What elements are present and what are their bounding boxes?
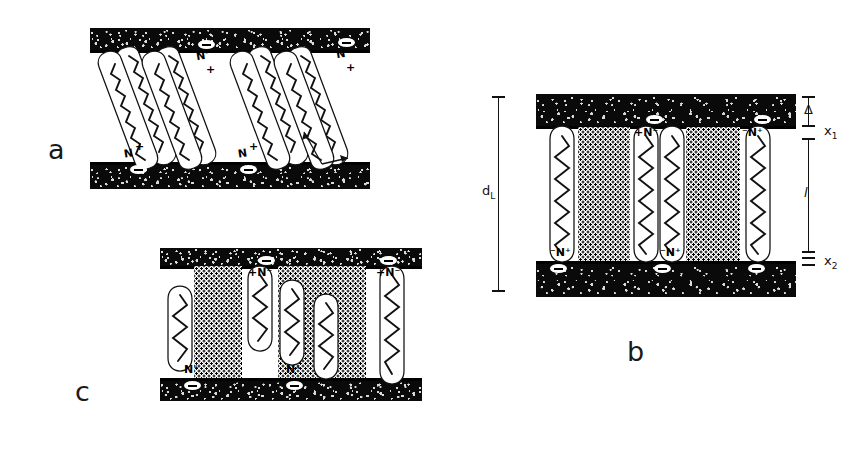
headgroup-label: N⁻ bbox=[335, 47, 352, 60]
dim-label-dL-sub: L bbox=[490, 191, 495, 201]
surface-charge-negative bbox=[380, 256, 397, 265]
dim-label-x1: x1 bbox=[824, 124, 837, 141]
dim-rule-l bbox=[808, 138, 809, 252]
dim-tick bbox=[802, 138, 815, 140]
minus-glyph bbox=[658, 268, 667, 270]
dim-label-x1-text: x bbox=[824, 123, 832, 138]
headgroup-label: + bbox=[249, 141, 258, 152]
minus-glyph bbox=[554, 268, 563, 270]
dim-label-delta: Δ bbox=[804, 103, 813, 116]
dim-label-x1-sub: 1 bbox=[832, 131, 838, 141]
headgroup-label: +N⁻ bbox=[376, 267, 400, 278]
panel-b-molecules bbox=[536, 126, 796, 262]
panel-b-top-substrate bbox=[536, 94, 796, 129]
surface-charge-negative bbox=[286, 381, 303, 390]
surface-charge-negative bbox=[130, 165, 147, 174]
surface-charge-negative bbox=[646, 115, 663, 124]
headgroup-label: N bbox=[237, 147, 248, 159]
minus-glyph bbox=[262, 260, 271, 262]
dim-tick bbox=[802, 251, 815, 253]
panel-letter-a: a bbox=[48, 136, 65, 163]
panel-letter-b: b bbox=[627, 338, 644, 365]
dim-label-x2-text: x bbox=[824, 253, 832, 268]
dim-tick bbox=[492, 96, 505, 98]
panel-c: +N⁻ +N⁻ N⁺ N⁺ bbox=[160, 248, 422, 398]
minus-glyph bbox=[752, 268, 761, 270]
headgroup-label: + bbox=[206, 64, 215, 75]
minus-glyph bbox=[188, 385, 197, 387]
panel-a-molecules bbox=[90, 46, 370, 186]
headgroup-label: ⁻N⁺ bbox=[742, 127, 763, 138]
headgroup-label: ⁻N⁺ bbox=[660, 247, 681, 258]
minus-glyph bbox=[290, 385, 299, 387]
minus-glyph bbox=[342, 42, 351, 44]
dim-label-x2-sub: 2 bbox=[832, 261, 838, 271]
headgroup-label: +N⁻ bbox=[634, 127, 658, 138]
figure-canvas: N⁻ + N⁻ + N + N + α a bbox=[0, 0, 866, 460]
minus-glyph bbox=[134, 169, 143, 171]
headgroup-label: + bbox=[135, 141, 144, 152]
minus-glyph bbox=[758, 119, 767, 121]
panel-letter-c: c bbox=[75, 378, 90, 405]
headgroup-label: + bbox=[346, 62, 355, 73]
surface-charge-negative bbox=[258, 256, 275, 265]
panel-b: +N⁻ ⁻N⁺ ⁻N⁺ ⁻N⁺ dL Δ x1 l x2 bbox=[536, 94, 796, 294]
dim-label-dL: dL bbox=[482, 184, 495, 201]
minus-glyph bbox=[650, 119, 659, 121]
surface-charge-negative bbox=[654, 264, 671, 273]
headgroup-label: N⁺ bbox=[184, 364, 199, 375]
headgroup-label: N bbox=[123, 147, 134, 159]
dim-rule-dL bbox=[498, 96, 499, 292]
headgroup-label: N⁻ bbox=[195, 49, 212, 62]
surface-charge-negative bbox=[240, 165, 257, 174]
minus-glyph bbox=[384, 260, 393, 262]
dim-label-x2: x2 bbox=[824, 254, 837, 271]
dim-tick bbox=[802, 125, 815, 127]
dim-tick bbox=[802, 264, 815, 266]
dim-label-l: l bbox=[804, 186, 808, 199]
minus-glyph bbox=[244, 169, 253, 171]
dim-tick bbox=[802, 96, 815, 98]
surface-charge-negative bbox=[748, 264, 765, 273]
headgroup-label: ⁻N⁺ bbox=[550, 247, 571, 258]
panel-a: N⁻ + N⁻ + N + N + α bbox=[90, 28, 370, 188]
surface-charge-negative bbox=[754, 115, 771, 124]
headgroup-label: N⁺ bbox=[286, 364, 301, 375]
headgroup-label: +N⁻ bbox=[248, 267, 272, 278]
dim-tick bbox=[492, 290, 505, 292]
surface-charge-negative bbox=[184, 381, 201, 390]
surface-charge-negative bbox=[550, 264, 567, 273]
dim-tick bbox=[802, 257, 815, 259]
minus-glyph bbox=[202, 44, 211, 46]
